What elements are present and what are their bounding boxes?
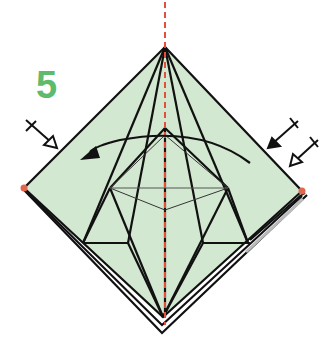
corner-dot-right-icon [299, 188, 306, 195]
corner-dot-left-icon [21, 185, 28, 192]
paper-square [24, 47, 302, 317]
origami-step-diagram [0, 0, 336, 343]
push-arrow-left-icon [26, 120, 57, 148]
push-arrow-right-icon [290, 137, 318, 166]
step-number: 5 [36, 66, 57, 104]
fold-arrow-right-icon [268, 118, 298, 148]
